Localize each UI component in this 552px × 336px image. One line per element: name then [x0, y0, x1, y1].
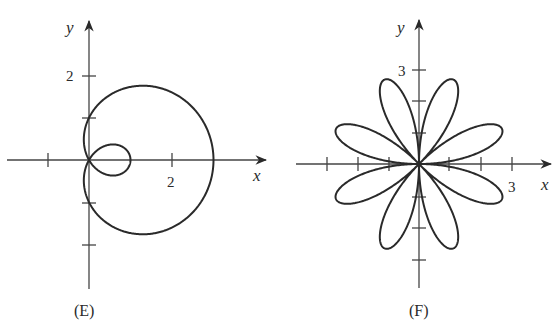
y-axis-label: y: [64, 18, 74, 37]
plot-e: y x 2 2 (E): [7, 18, 266, 320]
x-tick-label: 3: [508, 179, 516, 195]
y-tick-label: 2: [66, 68, 74, 84]
caption-e: (E): [74, 302, 94, 320]
y-axis-label: y: [395, 18, 405, 37]
caption-f: (F): [409, 302, 429, 320]
x-axis-label: x: [252, 166, 261, 185]
plot-f: y x 3 3 (F): [296, 18, 551, 320]
figure: y x 2 2 (E) y x 3 3 (F): [0, 0, 552, 336]
x-tick-label: 2: [167, 174, 175, 190]
y-tick-label: 3: [398, 63, 406, 79]
x-axis-label: x: [540, 175, 549, 194]
